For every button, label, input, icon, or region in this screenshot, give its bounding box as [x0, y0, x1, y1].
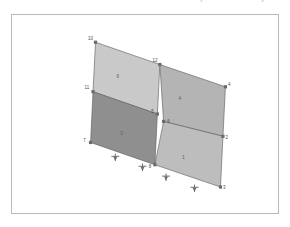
support-3-pin-icon[interactable] — [162, 173, 170, 180]
node-marker-7[interactable] — [89, 141, 92, 144]
clipped-header-label: Finite element shell mesh — isometric vi… — [6, 0, 284, 3]
node-marker-12[interactable] — [158, 63, 161, 66]
support-4-pin-icon[interactable] — [191, 185, 199, 192]
node-label-12: 12 — [152, 58, 157, 63]
node-marker-5[interactable] — [156, 112, 159, 115]
node-label-4: 4 — [228, 82, 231, 87]
node-marker-6[interactable] — [162, 120, 165, 123]
node-label-11: 11 — [85, 85, 90, 90]
model-viewport[interactable]: 94311012411562783 — [11, 14, 279, 214]
support-head — [193, 188, 197, 192]
node-label-2: 2 — [225, 135, 228, 140]
node-label-8: 8 — [149, 164, 152, 169]
node-marker-11[interactable] — [91, 90, 94, 93]
node-marker-2[interactable] — [221, 135, 224, 138]
support-1-pin-icon[interactable] — [111, 154, 119, 161]
clipped-header-text: Finite element shell mesh — isometric vi… — [0, 0, 290, 9]
node-marker-4[interactable] — [224, 85, 227, 88]
support-head — [113, 157, 117, 161]
model-canvas[interactable]: 94311012411562783 — [12, 15, 278, 213]
node-label-3: 3 — [223, 185, 226, 190]
node-marker-10[interactable] — [94, 41, 97, 44]
node-label-7: 7 — [83, 138, 86, 143]
support-head — [141, 167, 145, 171]
node-marker-3[interactable] — [219, 185, 222, 188]
support-head — [164, 177, 168, 181]
support-2-pin-icon[interactable] — [139, 164, 147, 171]
node-marker-8[interactable] — [153, 163, 156, 166]
node-label-10: 10 — [88, 36, 93, 41]
